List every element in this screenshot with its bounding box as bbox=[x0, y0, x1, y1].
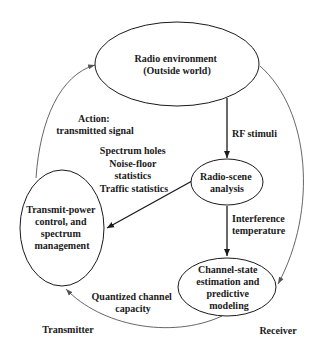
cognitive-cycle-diagram: Radio environment (Outside world) Radio-… bbox=[0, 0, 322, 354]
transmit-power-line-4: management bbox=[35, 240, 91, 251]
transmitter-label: Transmitter bbox=[42, 324, 94, 335]
rf-stimuli-line-1: RF stimuli bbox=[232, 128, 277, 139]
radio-environment-ellipse bbox=[95, 22, 259, 106]
edge-label-quantized: Quantized channel capacity bbox=[92, 291, 175, 314]
radio-environment-line-1: Radio environment bbox=[135, 53, 218, 64]
edge-label-interference: Interference temperature bbox=[232, 213, 287, 236]
channel-state-line-1: Channel-state bbox=[198, 264, 258, 275]
node-transmit-power-control: Transmit-power control, and spectrum man… bbox=[20, 170, 104, 286]
spectrum-info-line-1: Spectrum holes bbox=[100, 145, 166, 156]
quantized-line-2: capacity bbox=[115, 303, 151, 314]
channel-state-line-3: predictive bbox=[206, 288, 249, 299]
node-radio-environment: Radio environment (Outside world) bbox=[95, 22, 259, 106]
spectrum-info-line-3: statistics bbox=[114, 170, 151, 181]
action-line-2: transmitted signal bbox=[56, 125, 134, 136]
radio-environment-line-2: (Outside world) bbox=[143, 65, 211, 77]
svg-text:Radio environment (Outsi: Radio environment (Outside world) bbox=[135, 53, 220, 77]
action-line-1: Action: bbox=[78, 113, 110, 124]
edge-label-rf-stimuli: RF stimuli bbox=[232, 128, 277, 139]
interference-line-2: temperature bbox=[232, 225, 286, 236]
node-channel-state-estimation: Channel-state estimation and predictive … bbox=[178, 258, 276, 316]
spectrum-info-line-4: Traffic statistics bbox=[100, 183, 169, 194]
edge-label-spectrum-info: Spectrum holes Noise-floor statistics Tr… bbox=[100, 145, 169, 194]
radio-scene-line-2: analysis bbox=[210, 183, 244, 194]
transmit-power-line-1: Transmit-power bbox=[26, 204, 96, 215]
receiver-label: Receiver bbox=[259, 325, 297, 336]
channel-state-line-2: estimation and bbox=[196, 276, 260, 287]
channel-state-line-4: modeling bbox=[209, 300, 248, 311]
node-radio-scene-analysis: Radio-scene analysis bbox=[191, 159, 263, 205]
edge-label-action: Action: transmitted signal bbox=[56, 113, 134, 136]
radio-scene-analysis-ellipse bbox=[191, 159, 263, 205]
transmit-power-line-2: control, and bbox=[35, 216, 87, 227]
transmit-power-line-3: spectrum bbox=[41, 228, 82, 239]
edge-receiver-arc bbox=[260, 66, 303, 284]
interference-line-1: Interference bbox=[232, 213, 285, 224]
spectrum-info-line-2: Noise-floor bbox=[109, 158, 157, 169]
quantized-line-1: Quantized channel bbox=[92, 291, 173, 302]
radio-scene-line-1: Radio-scene bbox=[200, 171, 252, 182]
